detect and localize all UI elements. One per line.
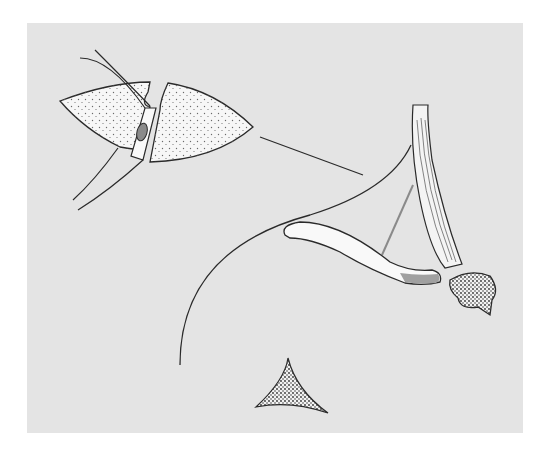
leader-line — [260, 137, 363, 175]
triangular-section — [256, 358, 328, 413]
clavicle-like-bone — [284, 222, 441, 284]
thin-strap — [382, 185, 413, 255]
bone-head — [450, 273, 496, 315]
lung-section-inset — [60, 50, 253, 210]
tendon-bundle — [412, 105, 462, 268]
anatomical-illustration — [0, 0, 550, 454]
